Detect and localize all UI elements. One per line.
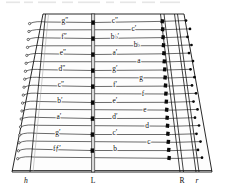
axis-label-r: R xyxy=(179,176,185,185)
note-label: g′ xyxy=(55,128,61,137)
note-label: d″ xyxy=(59,64,66,73)
instrument-diagram: g″ f″ e″ d″ c″ b′ a′ g′ fƒ′ c″ c′ b♭′ b♭… xyxy=(0,0,226,187)
note-label: b♭ xyxy=(134,40,141,49)
note-label: a′ xyxy=(57,112,62,121)
axis-marker-labels: h L R r xyxy=(24,176,198,185)
note-label: f″ xyxy=(61,32,67,41)
note-label: b xyxy=(113,144,117,153)
note-label: c″ xyxy=(58,80,64,89)
note-label: c″ xyxy=(112,16,118,25)
note-label: fƒ′ xyxy=(53,144,61,153)
note-label: d′ xyxy=(112,112,118,121)
axis-label-h: h xyxy=(24,176,28,185)
axis-label-r-small: r xyxy=(196,176,199,185)
note-label: g″ xyxy=(62,16,69,25)
scan-artifact-top xyxy=(6,2,180,4)
note-label: b′ xyxy=(57,96,63,105)
note-label: f′ xyxy=(113,80,117,89)
axis-label-l: L xyxy=(91,176,96,185)
center-bridge xyxy=(91,14,95,172)
note-label: e′ xyxy=(113,96,118,105)
diagram-canvas: g″ f″ e″ d″ c″ b′ a′ g′ fƒ′ c″ c′ b♭′ b♭… xyxy=(0,0,226,187)
note-label: b♭′ xyxy=(111,32,120,41)
note-label: a′ xyxy=(113,48,118,57)
note-label: g xyxy=(139,73,143,82)
note-label: e″ xyxy=(60,48,66,57)
note-label: c′ xyxy=(132,24,137,33)
note-label: g′ xyxy=(112,64,118,73)
note-label: d xyxy=(145,121,149,130)
note-label: c′ xyxy=(113,128,118,137)
